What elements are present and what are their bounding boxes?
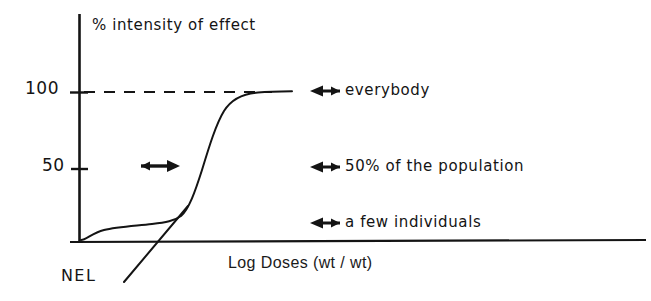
everybody-left-arrow-icon [310,86,340,97]
annotation-everybody: everybody [345,83,430,98]
dose-response-curve [81,91,292,240]
x-axis [70,240,646,242]
annotation-fifty-percent-population: 50% of the population [345,159,524,174]
few-individuals-left-arrow-icon [310,218,340,229]
annotation-few-individuals: a few individuals [345,215,481,230]
nel-pointer-line [124,206,188,282]
shift-right-arrow-icon [141,160,180,172]
fifty-percent-left-arrow-icon [310,162,340,173]
chart-title: % intensity of effect [92,18,256,33]
y-tick-label-50: 50 [42,157,65,174]
x-axis-label: Log Doses (wt / wt) [228,255,373,271]
nel-label: NEL [61,268,96,284]
y-tick-label-100: 100 [25,80,59,97]
dose-response-figure: % intensity of effect 100 50 everybody 5… [0,0,651,301]
